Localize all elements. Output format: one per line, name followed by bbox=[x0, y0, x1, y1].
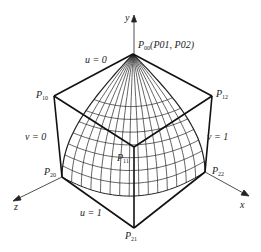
grid-line bbox=[81, 54, 133, 186]
x-axis-arrow-icon bbox=[241, 190, 249, 196]
label-p10: P10 bbox=[36, 90, 48, 101]
label-u1: u = 1 bbox=[80, 208, 102, 218]
label-p20: P20 bbox=[44, 167, 56, 178]
z-axis bbox=[17, 177, 62, 199]
control-edge bbox=[54, 96, 134, 147]
label-p00: P00(P01, P02) bbox=[138, 40, 194, 51]
bezier-patch-figure: y z x P00(P01, P02) P10 P12 P11 P20 P22 … bbox=[0, 0, 261, 252]
control-edge bbox=[134, 172, 205, 228]
y-axis-label: y bbox=[125, 13, 129, 23]
label-p11: P11 bbox=[117, 153, 129, 164]
control-edge bbox=[133, 54, 212, 96]
control-polygon bbox=[54, 54, 212, 228]
label-p12: P12 bbox=[216, 89, 228, 100]
label-v0: v = 0 bbox=[25, 132, 46, 142]
control-edge bbox=[62, 177, 134, 228]
control-edge bbox=[54, 96, 62, 177]
x-axis bbox=[205, 172, 245, 194]
control-edge bbox=[134, 96, 212, 147]
patch-diagram bbox=[0, 0, 261, 252]
label-p22: P22 bbox=[212, 166, 224, 177]
z-axis-label: z bbox=[14, 202, 18, 212]
x-axis-label: x bbox=[240, 200, 244, 210]
y-axis-arrow-icon bbox=[132, 15, 137, 22]
label-u0: u = 0 bbox=[85, 55, 107, 65]
grid-line bbox=[133, 54, 148, 195]
label-p21: P21 bbox=[125, 231, 137, 242]
grid-line bbox=[120, 54, 133, 196]
label-v1: v = 1 bbox=[207, 132, 228, 142]
